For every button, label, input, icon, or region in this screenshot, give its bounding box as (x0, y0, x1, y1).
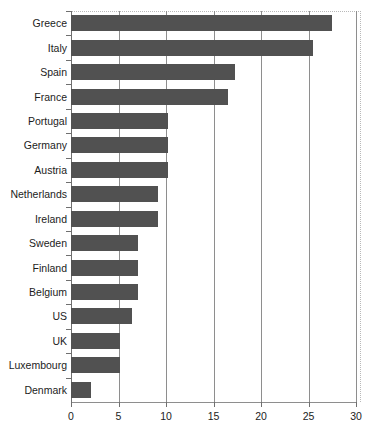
gridline (261, 11, 262, 402)
bar-ireland (71, 211, 158, 235)
x-tick (309, 402, 310, 407)
bar-rect (71, 357, 120, 373)
bar-belgium (71, 284, 138, 308)
y-axis-label-italy: Italy (48, 42, 67, 54)
y-tick (66, 60, 71, 61)
x-tick (119, 402, 120, 407)
bar-rect (71, 89, 228, 105)
bar-germany (71, 137, 168, 161)
gridline (356, 11, 357, 402)
x-axis-tick-label: 5 (104, 410, 134, 422)
y-tick (66, 182, 71, 183)
y-axis-label-sweden: Sweden (29, 237, 67, 249)
y-axis-label-us: US (52, 310, 67, 322)
bar-rect (71, 382, 91, 398)
bar-rect (71, 186, 158, 202)
x-tick (261, 402, 262, 407)
x-tick (71, 402, 72, 407)
bar-luxembourg (71, 357, 120, 381)
bar-portugal (71, 113, 168, 137)
y-tick (66, 109, 71, 110)
bar-rect (71, 137, 168, 153)
x-tick (214, 402, 215, 407)
y-axis-label-denmark: Denmark (24, 384, 67, 396)
bar-rect (71, 162, 168, 178)
y-tick (66, 378, 71, 379)
bar-rect (71, 235, 138, 251)
y-tick (66, 353, 71, 354)
x-axis-tick-label: 0 (56, 410, 86, 422)
bar-greece (71, 15, 332, 39)
y-tick (66, 304, 71, 305)
bar-rect (71, 211, 158, 227)
bar-chart: GreeceItalySpainFrancePortugalGermanyAus… (0, 0, 373, 431)
y-axis-label-austria: Austria (34, 164, 67, 176)
bar-rect (71, 333, 120, 349)
y-tick (66, 133, 71, 134)
bar-netherlands (71, 186, 158, 210)
bar-spain (71, 64, 235, 88)
bar-uk (71, 333, 120, 357)
bar-us (71, 308, 132, 332)
bar-finland (71, 260, 138, 284)
y-tick (66, 84, 71, 85)
x-tick (166, 402, 167, 407)
y-tick (66, 280, 71, 281)
y-axis-label-germany: Germany (24, 139, 67, 151)
y-axis-label-france: France (34, 91, 67, 103)
bar-rect (71, 15, 332, 31)
y-axis-label-greece: Greece (33, 17, 67, 29)
y-axis-label-spain: Spain (40, 66, 67, 78)
bar-france (71, 89, 228, 113)
x-axis-tick-label: 10 (151, 410, 181, 422)
bar-rect (71, 284, 138, 300)
bar-italy (71, 40, 313, 64)
y-axis-label-luxembourg: Luxembourg (9, 359, 67, 371)
y-tick (66, 255, 71, 256)
y-axis-label-ireland: Ireland (35, 213, 67, 225)
bar-rect (71, 113, 168, 129)
x-tick (356, 402, 357, 407)
y-tick (66, 207, 71, 208)
y-tick (66, 329, 71, 330)
y-axis-label-uk: UK (52, 335, 67, 347)
y-tick (66, 158, 71, 159)
x-axis-tick-label: 25 (294, 410, 324, 422)
x-axis-tick-label: 20 (246, 410, 276, 422)
x-axis-tick-label: 30 (341, 410, 371, 422)
bar-rect (71, 40, 313, 56)
y-tick (66, 231, 71, 232)
gridline (309, 11, 310, 402)
bar-sweden (71, 235, 138, 259)
y-tick (66, 35, 71, 36)
bar-rect (71, 260, 138, 276)
y-tick (66, 11, 71, 12)
y-axis-label-netherlands: Netherlands (10, 188, 67, 200)
x-axis-tick-label: 15 (199, 410, 229, 422)
y-axis-label-portugal: Portugal (28, 115, 67, 127)
y-axis-label-finland: Finland (33, 262, 67, 274)
bar-austria (71, 162, 168, 186)
bar-rect (71, 308, 132, 324)
y-axis-label-belgium: Belgium (29, 286, 67, 298)
bar-rect (71, 64, 235, 80)
